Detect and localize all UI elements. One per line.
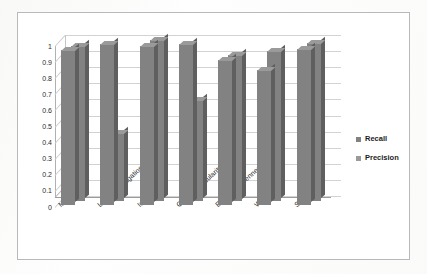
y-axis-tick-label: 1: [22, 43, 52, 50]
bar-side: [114, 38, 118, 202]
y-axis-tick-label: 0.6: [22, 107, 52, 114]
plot-area: [55, 35, 340, 205]
x-axis-tick-labels: MultilevelLabel PropagationInfomapGreedy…: [55, 203, 355, 273]
bar-side: [193, 38, 197, 202]
bar-side: [281, 45, 285, 198]
chart-frame: 10.90.80.70.60.50.40.30.20.10 Multilevel…: [17, 12, 410, 260]
bar-side: [203, 93, 207, 198]
bar-recall: [61, 50, 75, 205]
gridline: [66, 35, 341, 36]
bar-group: [61, 43, 100, 205]
bar-recall: [257, 70, 271, 205]
bar-side: [311, 43, 315, 202]
bar-group: [218, 43, 257, 205]
bar-face: [218, 60, 232, 205]
bar-face: [257, 70, 271, 205]
bar-side: [85, 40, 89, 198]
bar-side: [242, 48, 246, 198]
y-axis-tick-label: 0: [22, 204, 52, 211]
bar-face: [179, 44, 193, 205]
bar-face: [140, 46, 154, 205]
legend-item-label: Precision: [365, 154, 399, 162]
y-axis-tick-label: 0.9: [22, 59, 52, 66]
bar-side: [232, 54, 236, 202]
bar-face: [61, 50, 75, 205]
bar-group: [179, 43, 218, 205]
bar-recall: [140, 46, 154, 205]
y-axis-tick-label: 0.3: [22, 155, 52, 162]
bar-face: [100, 44, 114, 205]
bar-group: [297, 43, 336, 205]
legend-swatch-icon: [356, 156, 361, 161]
bar-recall: [218, 60, 232, 205]
legend-item[interactable]: Recall: [356, 135, 418, 143]
bar-face: [297, 49, 311, 205]
y-axis-tick-label: 0.8: [22, 75, 52, 82]
legend-item-label: Recall: [365, 135, 387, 143]
bar-group: [140, 43, 179, 205]
bar-side: [321, 37, 325, 198]
y-axis-tick-label: 0.1: [22, 187, 52, 194]
chart-legend: RecallPrecision: [356, 135, 418, 173]
bar-side: [154, 39, 158, 202]
y-axis-tick-label: 0.2: [22, 171, 52, 178]
bar-group: [100, 43, 139, 205]
y-axis-tick-label: 0.4: [22, 139, 52, 146]
y-axis-tick-label: 0.7: [22, 91, 52, 98]
bar-side: [271, 64, 275, 202]
bar-side: [75, 44, 79, 202]
legend-item[interactable]: Precision: [356, 154, 418, 162]
bar-group: [257, 43, 296, 205]
bar-side: [164, 34, 168, 198]
bar-recall: [297, 49, 311, 205]
chart-screenshot: 10.90.80.70.60.50.40.30.20.10 Multilevel…: [0, 0, 427, 274]
bar-recall: [100, 44, 114, 205]
bar-recall: [179, 44, 193, 205]
bar-side: [124, 127, 128, 198]
y-axis-tick-label: 0.5: [22, 123, 52, 130]
y-axis-tick-labels: 10.90.80.70.60.50.40.30.20.10: [18, 35, 52, 205]
legend-swatch-icon: [356, 137, 361, 142]
